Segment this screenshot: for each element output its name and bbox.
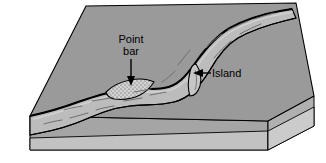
- point-bar-label: Point bar: [107, 33, 155, 57]
- meandering-river-block-diagram: [0, 0, 326, 163]
- block-diagram-figure: Point bar Island: [0, 0, 326, 163]
- point-bar-label-line2: bar: [107, 45, 155, 57]
- island-label: Island: [212, 67, 241, 79]
- point-bar-label-line1: Point: [107, 33, 155, 45]
